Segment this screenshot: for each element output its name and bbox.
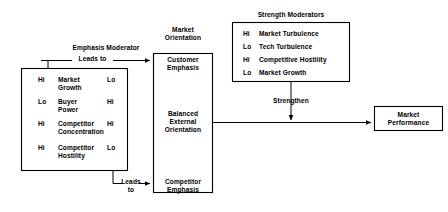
moderator-row-left-2: Lo <box>38 98 56 106</box>
market-performance-label: Market Performance <box>375 111 442 127</box>
moderator-row-right-1: Lo <box>107 76 125 84</box>
moderator-row-factor-3: Competitor Concentration <box>58 120 114 136</box>
moderator-row-factor-4: Competitor Hostility <box>58 144 110 160</box>
strength-item-level-3: Hi <box>243 56 257 64</box>
diagram-canvas: Emphasis Moderator Leads to Hi Market Gr… <box>0 0 448 212</box>
moderator-row-left-3: Hi <box>38 120 56 128</box>
edge-label-leads-to-top: Leads to <box>72 55 113 63</box>
moderator-row-factor-1: Market Growth <box>58 76 110 92</box>
market-orientation-segment-competitor: Competitor Emphasis <box>154 178 212 194</box>
moderator-row-factor-2: Buyer Power <box>58 98 110 114</box>
strength-item-level-1: Hi <box>243 30 257 38</box>
emphasis-moderator-caption: Emphasis Moderator <box>48 44 164 52</box>
moderator-row-left-1: Hi <box>38 76 56 84</box>
strength-item-factor-4: Market Growth <box>259 69 349 77</box>
edge-label-leads-to-bottom: Leads to <box>119 178 143 194</box>
moderator-row-right-3: Hi <box>107 120 125 128</box>
market-orientation-segment-balanced: Balanced External Orientation <box>154 110 212 133</box>
moderator-row-right-2: Hi <box>107 98 125 106</box>
edge-label-strengthen: Strengthen <box>264 97 318 105</box>
strength-item-level-2: Lo <box>243 43 257 51</box>
strength-moderators-caption: Strength Moderators <box>232 11 350 19</box>
market-orientation-caption: Market Orientation <box>152 26 214 42</box>
moderator-row-right-4: Lo <box>107 144 125 152</box>
strength-item-factor-1: Market Turbulence <box>259 30 349 38</box>
strength-item-level-4: Lo <box>243 69 257 77</box>
market-orientation-segment-customer: Customer Emphasis <box>154 56 212 72</box>
strength-item-factor-2: Tech Turbulence <box>259 43 349 51</box>
strength-item-factor-3: Competitive Hostility <box>259 56 349 64</box>
moderator-row-left-4: Hi <box>38 144 56 152</box>
